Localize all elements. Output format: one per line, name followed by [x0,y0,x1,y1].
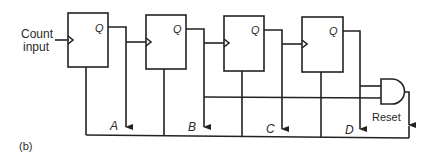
and-gate [381,79,405,104]
reset-bus [86,135,409,138]
reset-output-wire [404,92,409,125]
tap-label-a: A [109,119,118,133]
output-b-wire [186,29,204,127]
q-label-3: Q [251,24,260,36]
reset-label: Reset [372,111,401,123]
b-to-gate-wire [204,97,381,98]
output-a-wire [108,27,126,127]
count-input-label-2: input [23,40,50,54]
tap-label-b: B [188,120,196,134]
ripple-counter-diagram: Count input Q Q Q Q A B C D Reset (b) [0,0,431,158]
output-c-wire [264,30,282,129]
count-input-label: Count [21,27,54,41]
q-label-2: Q [173,23,182,35]
q-label-4: Q [329,25,338,37]
tap-label-d: D [345,123,354,137]
output-d-wire [343,31,360,129]
figure-caption: (b) [19,140,32,152]
tap-label-c: C [266,122,275,136]
q-label-1: Q [95,22,104,34]
